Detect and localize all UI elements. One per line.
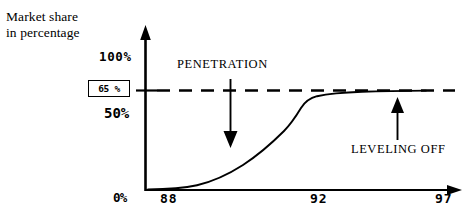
market-share-curve xyxy=(148,91,426,190)
penetration-arrowhead-down-icon xyxy=(224,131,238,148)
chart-canvas xyxy=(0,0,473,214)
annotation-penetration-label: PENETRATION xyxy=(177,57,268,72)
x-axis-label-97: 97 xyxy=(435,191,453,206)
market-share-penetration-figure: Market sharein percentage 100% 50% 0% 65… xyxy=(0,0,473,214)
y-axis-label-50: 50% xyxy=(104,105,129,122)
leveling-off-arrowhead-up-icon xyxy=(391,97,404,113)
annotation-leveling-off-label: LEVELING OFF xyxy=(351,142,445,157)
y-axis-arrowhead-icon xyxy=(140,25,151,40)
x-axis-label-88: 88 xyxy=(160,191,178,206)
highlight-value-box: 65 % xyxy=(88,80,130,97)
y-axis-label-100: 100% xyxy=(99,50,132,65)
y-axis-label-0: 0% xyxy=(113,191,126,206)
highlight-value-label: 65 % xyxy=(98,83,120,94)
x-axis-label-92: 92 xyxy=(310,191,328,206)
